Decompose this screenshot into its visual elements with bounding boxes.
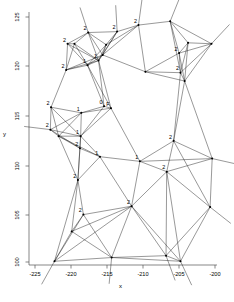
mesh-node[interactable] bbox=[209, 206, 211, 208]
mesh-edge bbox=[100, 157, 140, 162]
mesh-node[interactable] bbox=[137, 24, 139, 26]
mesh-node[interactable] bbox=[131, 205, 133, 207]
mesh-node[interactable] bbox=[180, 260, 182, 262]
mesh-node-label: 2 bbox=[79, 207, 82, 213]
y-tick-labels: 125 120 115 110 105 100 bbox=[14, 12, 20, 266]
mesh-node[interactable] bbox=[67, 43, 69, 45]
mesh-node-label: 2 bbox=[134, 18, 137, 24]
mesh-node[interactable] bbox=[105, 44, 107, 46]
mesh-node[interactable] bbox=[187, 42, 189, 44]
mesh-node[interactable] bbox=[80, 112, 82, 114]
mesh-node[interactable] bbox=[111, 257, 113, 259]
x-tick-label: -205 bbox=[173, 271, 184, 277]
mesh-node-label: 2 bbox=[176, 65, 179, 71]
mesh-node[interactable] bbox=[77, 179, 79, 181]
mesh-node[interactable] bbox=[180, 72, 182, 74]
mesh-node[interactable] bbox=[65, 69, 67, 71]
mesh-node-label-layer: 222221122210F2121122222 bbox=[46, 18, 179, 214]
mesh-edge bbox=[140, 159, 212, 162]
figure-canvas: 125 120 115 110 105 100 -225 -220 -215 -… bbox=[0, 0, 234, 302]
mesh-node-label: 2 bbox=[127, 199, 130, 205]
mesh-node[interactable] bbox=[139, 160, 141, 162]
mesh-node[interactable] bbox=[49, 129, 51, 131]
mesh-node[interactable] bbox=[58, 135, 60, 137]
mesh-node-label: 2 bbox=[46, 100, 49, 106]
mesh-node[interactable] bbox=[73, 43, 75, 45]
mesh-edge bbox=[103, 25, 139, 55]
mesh-edge bbox=[188, 43, 211, 44]
x-tick-label: -210 bbox=[137, 271, 148, 277]
mesh-node[interactable] bbox=[178, 52, 180, 54]
mesh-edge-ray bbox=[116, 6, 117, 32]
mesh-edge bbox=[185, 44, 212, 81]
mesh-node[interactable] bbox=[87, 32, 89, 34]
mesh-edge bbox=[50, 107, 51, 129]
mesh-edge bbox=[54, 206, 131, 261]
mesh-edge bbox=[112, 258, 181, 262]
y-tick-marks bbox=[26, 17, 30, 262]
mesh-edge bbox=[145, 53, 179, 72]
mesh-node[interactable] bbox=[210, 43, 212, 45]
y-tick-label: 115 bbox=[14, 112, 20, 121]
mesh-node[interactable] bbox=[173, 140, 175, 142]
mesh-node-label: 1 bbox=[135, 154, 138, 160]
mesh-edge bbox=[138, 21, 170, 25]
mesh-edge-ray bbox=[170, 0, 180, 21]
mesh-node-label: 2 bbox=[62, 63, 65, 69]
y-tick-label: 125 bbox=[14, 12, 20, 21]
mesh-edge bbox=[103, 55, 146, 72]
mesh-node-label: 1 bbox=[95, 150, 98, 156]
mesh-node-label: 2 bbox=[113, 24, 116, 30]
mesh-edge-ray bbox=[211, 25, 229, 44]
mesh-node[interactable] bbox=[144, 71, 146, 73]
mesh-edge bbox=[140, 141, 174, 162]
mesh-edge bbox=[117, 25, 138, 32]
mesh-node[interactable] bbox=[211, 158, 213, 160]
mesh-edge bbox=[174, 141, 210, 207]
mesh-node[interactable] bbox=[80, 135, 82, 137]
mesh-node[interactable] bbox=[110, 107, 112, 109]
mesh-edge bbox=[50, 113, 81, 130]
mesh-edge bbox=[167, 141, 174, 172]
mesh-edge bbox=[170, 21, 211, 43]
mesh-edge-ray bbox=[138, 0, 142, 25]
mesh-edge bbox=[106, 25, 138, 45]
mesh-node[interactable] bbox=[50, 106, 52, 108]
mesh-edge bbox=[174, 141, 213, 159]
x-axis-title: x bbox=[119, 283, 122, 289]
mesh-edge bbox=[170, 21, 188, 42]
mesh-node[interactable] bbox=[165, 255, 167, 257]
mesh-node[interactable] bbox=[82, 214, 84, 216]
mesh-node[interactable] bbox=[116, 31, 118, 33]
mesh-edge-ray bbox=[212, 159, 234, 165]
mesh-node[interactable] bbox=[99, 156, 101, 158]
mesh-edge bbox=[54, 258, 111, 262]
mesh-node-label: 2 bbox=[169, 134, 172, 140]
mesh-node-label: 1 bbox=[76, 129, 79, 135]
mesh-node[interactable] bbox=[53, 260, 55, 262]
mesh-node[interactable] bbox=[87, 64, 89, 66]
mesh-edge bbox=[174, 73, 181, 141]
x-tick-label: -225 bbox=[29, 271, 40, 277]
mesh-node-label: 2 bbox=[84, 25, 87, 31]
mesh-edge bbox=[54, 215, 83, 262]
axis-lines bbox=[29, 12, 217, 265]
mesh-node[interactable] bbox=[166, 171, 168, 173]
mesh-node[interactable] bbox=[184, 80, 186, 82]
mesh-node-label: 2 bbox=[75, 141, 78, 147]
mesh-edge bbox=[51, 107, 59, 136]
mesh-edge bbox=[174, 81, 185, 141]
mesh-node[interactable] bbox=[71, 230, 73, 232]
mesh-edge bbox=[185, 43, 188, 81]
mesh-edge-ray bbox=[166, 256, 175, 280]
mesh-node[interactable] bbox=[98, 60, 100, 62]
mesh-edge bbox=[51, 70, 66, 107]
mesh-edge bbox=[88, 32, 117, 33]
mesh-node[interactable] bbox=[169, 20, 171, 22]
mesh-node-label: 0 bbox=[99, 99, 102, 105]
mesh-node-label: 1 bbox=[77, 106, 80, 112]
mesh-edge bbox=[181, 207, 211, 261]
mesh-node[interactable] bbox=[79, 147, 81, 149]
mesh-node[interactable] bbox=[102, 54, 104, 56]
mesh-node[interactable] bbox=[103, 105, 105, 107]
